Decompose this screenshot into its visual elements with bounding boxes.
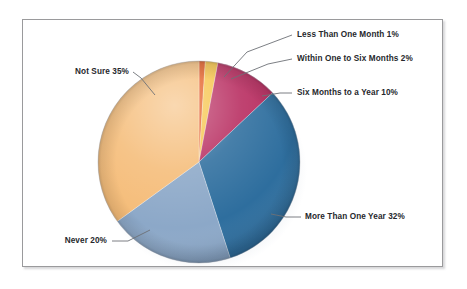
slice-label-not-sure: Not Sure 35% [39, 68, 129, 76]
pie-chart-canvas [0, 0, 467, 289]
chart-page: Less Than One Month 1% Within One to Six… [0, 0, 467, 289]
slice-label-six-months-to-a-year: Six Months to a Year 10% [297, 89, 398, 97]
slice-label-more-than-one-year: More Than One Year 32% [305, 213, 405, 221]
pie-slice-group [98, 61, 300, 263]
pie-chart: Less Than One Month 1% Within One to Six… [0, 0, 467, 289]
slice-label-within-one-to-six-months: Within One to Six Months 2% [297, 55, 413, 63]
slice-label-never: Never 20% [32, 237, 107, 245]
slice-label-less-than-one-month: Less Than One Month 1% [297, 31, 399, 39]
